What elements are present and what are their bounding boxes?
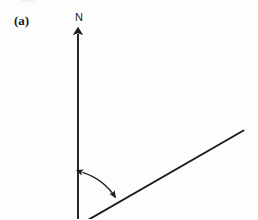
bearing-line [88,131,244,220]
figure-panel: (a) N [0,0,258,219]
angle-arc-arrow [83,172,116,197]
figure-canvas [0,0,258,219]
panel-label: (a) [14,13,29,29]
north-axis-label: N [71,11,87,23]
